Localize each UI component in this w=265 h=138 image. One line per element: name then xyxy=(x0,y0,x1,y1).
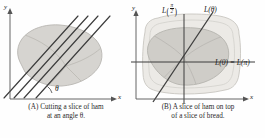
panel-a: y x θ (A) Cutting a slice of ham at an a… xyxy=(0,0,132,138)
panel-a-diagram xyxy=(0,0,132,106)
panel-b-caption: (B) A slice of ham on top of a slice of … xyxy=(131,103,265,122)
x-axis-arrow-b xyxy=(243,96,249,101)
panel-b-diagram xyxy=(131,0,265,106)
panel-a-caption-line1: (A) Cutting a slice of ham xyxy=(28,103,103,111)
paren-close: ) xyxy=(175,6,178,17)
panel-b-y-axis-label: y xyxy=(132,4,135,12)
label-L0-equals-Lpi: L(0) = L(π) xyxy=(215,58,250,67)
panel-a-x-axis-label: x xyxy=(118,93,121,101)
label-L-pi-over-2: L(π2) xyxy=(162,3,178,17)
panel-a-angle-label: θ xyxy=(55,84,59,93)
panel-b-x-axis-label: x xyxy=(250,93,253,101)
panel-a-caption-line2: at an angle θ. xyxy=(0,112,132,121)
panel-a-stage xyxy=(0,0,132,106)
angle-arc-a xyxy=(48,87,53,94)
panel-b-caption-line1: (B) A slice of ham on top xyxy=(162,103,235,111)
paren-open: ( xyxy=(167,6,170,17)
panel-b-stage xyxy=(131,0,265,106)
ham-slice-shape-a xyxy=(18,25,102,86)
panel-a-caption: (A) Cutting a slice of ham at an angle θ… xyxy=(0,103,132,122)
y-axis-arrow-a xyxy=(7,8,12,14)
ham-sandwich-figure: y x θ (A) Cutting a slice of ham at an a… xyxy=(0,0,265,138)
panel-b: y x L(π2) L(θ) L(0) = L(π) (B) A slice o… xyxy=(131,0,265,138)
panel-a-y-axis-label: y xyxy=(4,3,7,11)
label-L-theta: L(θ) xyxy=(204,5,217,14)
fraction-denominator: 2 xyxy=(170,9,174,14)
panel-b-caption-line2: of a slice of bread. xyxy=(131,112,265,121)
x-axis-arrow-a xyxy=(111,96,117,101)
fraction-pi-over-2: π2 xyxy=(170,3,174,15)
